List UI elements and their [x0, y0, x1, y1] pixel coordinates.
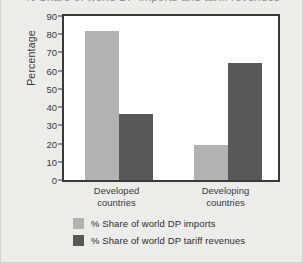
y-tick-label: 0: [52, 175, 57, 186]
chart-legend: % Share of world DP imports% Share of wo…: [73, 216, 273, 250]
bar-1-0: [194, 145, 228, 180]
x-tick-label-line: countries: [202, 197, 250, 209]
chart-title: % Share of world DP imports and tariff r…: [1, 0, 303, 5]
y-tick-label: 80: [46, 29, 57, 40]
x-tick-label-line: Developing: [202, 185, 250, 197]
plot-area: [64, 16, 278, 180]
y-tick-label: 70: [46, 47, 57, 58]
x-tick-label-line: countries: [94, 197, 139, 209]
y-tick-label: 50: [46, 83, 57, 94]
legend-swatch-icon: [73, 218, 84, 229]
x-tick-label: Developedcountries: [94, 185, 139, 208]
y-tick-label: 10: [46, 156, 57, 167]
legend-item[interactable]: % Share of world DP imports: [73, 216, 273, 231]
y-tick-label: 20: [46, 138, 57, 149]
y-tick-label: 60: [46, 65, 57, 76]
y-tick-label: 30: [46, 120, 57, 131]
x-tick-label-line: Developed: [94, 185, 139, 197]
bar-1-1: [228, 63, 262, 180]
legend-swatch-icon: [73, 235, 84, 246]
y-axis-tick-labels: 0102030405060708090: [23, 14, 62, 182]
x-axis-tick-labels: DevelopedcountriesDevelopingcountries: [62, 185, 280, 211]
plot-frame: [62, 14, 280, 182]
chart-figure: % Share of world DP imports and tariff r…: [0, 0, 303, 263]
bar-0-1: [119, 114, 153, 180]
bar-0-0: [85, 31, 119, 180]
y-tick-label: 40: [46, 102, 57, 113]
y-tick-label: 90: [46, 11, 57, 22]
legend-item[interactable]: % Share of world DP tariff revenues: [73, 233, 273, 248]
x-tick-label: Developingcountries: [202, 185, 250, 208]
legend-label: % Share of world DP imports: [91, 218, 216, 229]
legend-label: % Share of world DP tariff revenues: [91, 235, 245, 246]
